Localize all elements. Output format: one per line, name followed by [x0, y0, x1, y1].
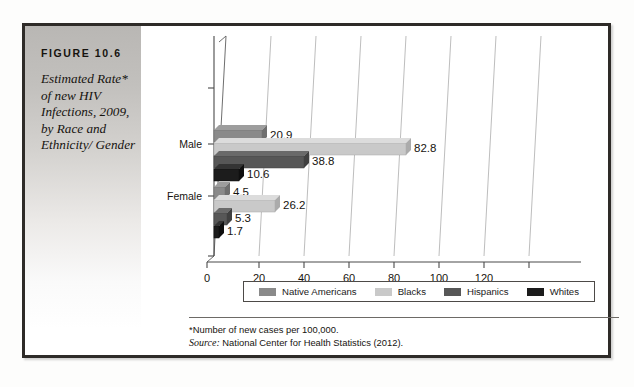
legend-label-whites: Whites [550, 286, 579, 297]
legend-swatch-icon [259, 288, 276, 296]
legend-label-hispanics: Hispanics [467, 286, 509, 297]
legend-swatch-icon [444, 288, 461, 296]
y-axis-ticks [208, 88, 214, 256]
figure-number-label: FIGURE 10.6 [41, 47, 122, 59]
bar-value-male-hispanics: 38.8 [312, 155, 334, 167]
y-category-label-female: Female [167, 190, 202, 202]
y-category-label-male: Male [179, 138, 202, 150]
footnote-source: Source: National Center for Health Stati… [189, 337, 619, 350]
x-axis-ticks [207, 262, 529, 268]
chart-area: 0 20 40 60 80 100 120 Male Female 20.9 [141, 26, 608, 355]
footnote-block: *Number of new cases per 100,000. Source… [189, 324, 619, 349]
footnote-note: *Number of new cases per 100,000. [189, 324, 619, 337]
bar-value-male-blacks: 82.8 [414, 142, 436, 154]
legend-label-native-americans: Native Americans [282, 286, 357, 297]
legend-label-blacks: Blacks [398, 286, 426, 297]
legend-item-hispanics: Hispanics [444, 286, 509, 297]
page-background: FIGURE 10.6 Estimated Rate* of new HIV I… [0, 0, 634, 387]
bar-value-male-whites: 10.6 [247, 168, 269, 180]
chart-legend: Native Americans Blacks Hispanics Whites [243, 281, 595, 302]
footnote-divider [189, 317, 619, 318]
bar-value-female-hispanics: 5.3 [235, 212, 251, 224]
bar-value-female-whites: 1.7 [227, 225, 243, 237]
bar-male-whites [214, 164, 244, 181]
figure-caption-panel: FIGURE 10.6 Estimated Rate* of new HIV I… [25, 26, 141, 355]
legend-item-native-americans: Native Americans [259, 286, 357, 297]
legend-swatch-icon [375, 288, 392, 296]
legend-swatch-icon [527, 288, 544, 296]
footnote-source-label: Source: [189, 337, 220, 348]
bar-chart-plot: 0 20 40 60 80 100 120 Male Female 20.9 [141, 26, 614, 286]
legend-item-blacks: Blacks [375, 286, 426, 297]
bar-value-female-blacks: 26.2 [283, 199, 305, 211]
figure-frame: FIGURE 10.6 Estimated Rate* of new HIV I… [22, 23, 611, 358]
legend-item-whites: Whites [527, 286, 579, 297]
x-tick-label-0: 0 [204, 272, 210, 284]
figure-title: Estimated Rate* of new HIV Infections, 2… [41, 71, 137, 154]
footnote-source-text: National Center for Health Statistics (2… [220, 337, 403, 348]
